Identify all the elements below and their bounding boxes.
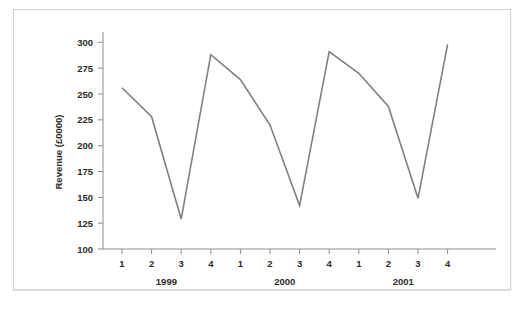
x-tick-label: 1 (119, 258, 125, 269)
y-axis-title-group: Revenue (£0000) (53, 115, 64, 190)
x-axis-year-labels: 199920002001 (156, 276, 415, 287)
x-tick-label: 4 (327, 258, 333, 269)
y-tick-label: 100 (77, 244, 93, 255)
screenshot-root: Revenue (£0000) 100125150175200225250275… (0, 0, 527, 309)
x-group-label: 1999 (156, 276, 177, 287)
y-tick-label: 225 (77, 114, 94, 125)
x-tick-label: 3 (179, 258, 184, 269)
y-tick-label: 175 (77, 166, 94, 177)
y-tick-label: 300 (77, 37, 93, 48)
chart-svg: Revenue (£0000) 100125150175200225250275… (14, 10, 512, 291)
line-chart: Revenue (£0000) 100125150175200225250275… (14, 10, 512, 291)
x-tick-label: 4 (445, 258, 451, 269)
y-tick-label: 250 (77, 89, 93, 100)
x-group-label: 2001 (393, 276, 415, 287)
x-tick-label: 1 (356, 258, 362, 269)
x-tick-label: 2 (386, 258, 391, 269)
y-tick-label: 200 (77, 140, 93, 151)
x-tick-label: 4 (208, 258, 214, 269)
y-axis-ticks: 100125150175200225250275300 (77, 37, 103, 255)
x-group-label: 2000 (274, 276, 295, 287)
revenue-series-line (122, 44, 448, 219)
x-axis-quarter-labels: 123412341234 (119, 258, 451, 269)
chart-figure-frame: Revenue (£0000) 100125150175200225250275… (13, 9, 511, 290)
x-tick-label: 1 (238, 258, 244, 269)
y-axis-title: Revenue (£0000) (53, 115, 64, 190)
x-tick-label: 2 (267, 258, 272, 269)
x-tick-label: 3 (415, 258, 420, 269)
y-tick-label: 150 (77, 192, 93, 203)
x-tick-label: 3 (297, 258, 302, 269)
y-tick-label: 275 (77, 63, 94, 74)
x-axis-ticks (122, 249, 448, 254)
x-tick-label: 2 (149, 258, 154, 269)
y-tick-label: 125 (77, 218, 94, 229)
